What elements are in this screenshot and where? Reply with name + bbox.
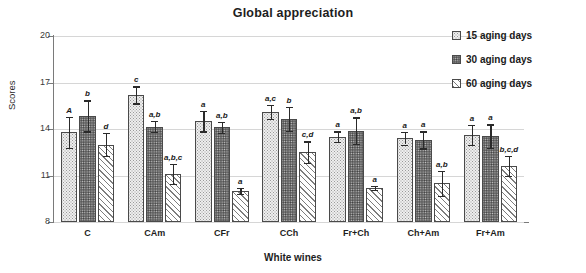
error-bar	[106, 133, 107, 156]
chart-title: Global appreciation	[0, 6, 586, 20]
legend-item[interactable]: 15 aging days	[452, 30, 580, 41]
error-bar	[472, 125, 473, 145]
significance-label: a,b,c	[159, 153, 187, 162]
error-bar	[308, 141, 309, 163]
category-label: Fr+Ch	[326, 228, 386, 238]
error-bar-cap-top	[237, 188, 244, 189]
y-tick-label: 11	[0, 170, 50, 180]
error-bar	[271, 105, 272, 119]
error-bar-cap-top	[304, 141, 311, 142]
error-bar-cap-bottom	[133, 103, 140, 104]
error-bar	[155, 121, 156, 132]
error-bar-cap-top	[66, 117, 73, 118]
y-tick-label: 20	[0, 30, 50, 40]
error-bar	[338, 131, 339, 142]
category-label: Ch+Am	[393, 228, 453, 238]
x-axis-title: White wines	[0, 252, 586, 263]
significance-label: b	[74, 89, 102, 98]
error-bar-cap-top	[438, 171, 445, 172]
category-label: C	[58, 228, 118, 238]
error-bar-cap-top	[371, 186, 378, 187]
error-bar-cap-bottom	[438, 196, 445, 197]
legend-item[interactable]: 60 aging days	[452, 78, 580, 89]
error-bar-cap-top	[151, 121, 158, 122]
category-label: CCh	[259, 228, 319, 238]
error-bar-cap-top	[420, 131, 427, 132]
error-bar-cap-bottom	[371, 190, 378, 191]
gridline	[54, 222, 524, 223]
error-bar-cap-top	[286, 107, 293, 108]
error-bar-cap-bottom	[151, 132, 158, 133]
error-bar-cap-top	[84, 100, 91, 101]
significance-label: b	[275, 96, 303, 105]
error-bar-cap-top	[401, 132, 408, 133]
error-bar	[222, 122, 223, 133]
legend-label: 60 aging days	[466, 78, 532, 89]
bar	[329, 137, 346, 222]
error-bar	[423, 131, 424, 148]
error-bar-cap-top	[334, 131, 341, 132]
significance-label: a,b	[428, 160, 456, 169]
significance-label: a	[189, 100, 217, 109]
error-bar	[69, 117, 70, 148]
error-bar-cap-top	[218, 122, 225, 123]
bar	[397, 138, 414, 222]
significance-label: c,d	[294, 130, 322, 139]
legend-swatch-icon	[452, 31, 461, 40]
error-bar	[136, 86, 137, 103]
error-bar-cap-top	[487, 124, 494, 125]
significance-label: a	[226, 177, 254, 186]
error-bar	[203, 111, 204, 131]
error-bar	[405, 132, 406, 144]
bar	[146, 127, 163, 222]
y-tick-label: 8	[0, 216, 50, 226]
error-bar	[442, 171, 443, 196]
error-bar-cap-bottom	[200, 131, 207, 132]
error-bar-cap-bottom	[353, 144, 360, 145]
error-bar-cap-top	[133, 86, 140, 87]
category-label: Fr+Am	[460, 228, 520, 238]
significance-label: a	[476, 113, 504, 122]
y-tick-label: 14	[0, 123, 50, 133]
error-bar-cap-bottom	[286, 131, 293, 132]
significance-label: a	[324, 120, 352, 129]
bar	[262, 112, 279, 222]
y-axis-title: Scores	[6, 80, 17, 110]
error-bar-cap-bottom	[66, 148, 73, 149]
error-bar-cap-bottom	[505, 176, 512, 177]
error-bar	[490, 124, 491, 147]
significance-label: A	[55, 106, 83, 115]
error-bar-cap-top	[468, 125, 475, 126]
bar	[415, 140, 432, 222]
error-bar-cap-bottom	[304, 163, 311, 164]
significance-label: a	[409, 120, 437, 129]
bar	[195, 121, 212, 222]
error-bar-cap-top	[200, 111, 207, 112]
bar	[232, 191, 249, 222]
error-bar-cap-bottom	[237, 194, 244, 195]
legend-swatch-icon	[452, 55, 461, 64]
error-bar-cap-bottom	[218, 133, 225, 134]
category-label: CFr	[192, 228, 252, 238]
error-bar-cap-top	[353, 117, 360, 118]
legend-label: 30 aging days	[466, 54, 532, 65]
significance-label: a,b	[141, 110, 169, 119]
legend-label: 15 aging days	[466, 30, 532, 41]
significance-label: d	[92, 122, 120, 131]
legend-item[interactable]: 30 aging days	[452, 54, 580, 65]
significance-label: a,b	[208, 111, 236, 120]
significance-label: a	[361, 175, 389, 184]
error-bar-cap-bottom	[401, 145, 408, 146]
error-bar	[289, 107, 290, 130]
error-bar-cap-top	[505, 156, 512, 157]
error-bar-cap-bottom	[170, 184, 177, 185]
bar	[366, 188, 383, 222]
bar-chart: Global appreciation 811141720 Scores Whi…	[0, 0, 586, 273]
error-bar-cap-bottom	[267, 119, 274, 120]
error-bar	[173, 164, 174, 184]
error-bar-cap-top	[267, 105, 274, 106]
error-bar-cap-bottom	[420, 148, 427, 149]
error-bar	[356, 117, 357, 143]
error-bar-cap-top	[170, 164, 177, 165]
error-bar-cap-bottom	[487, 148, 494, 149]
